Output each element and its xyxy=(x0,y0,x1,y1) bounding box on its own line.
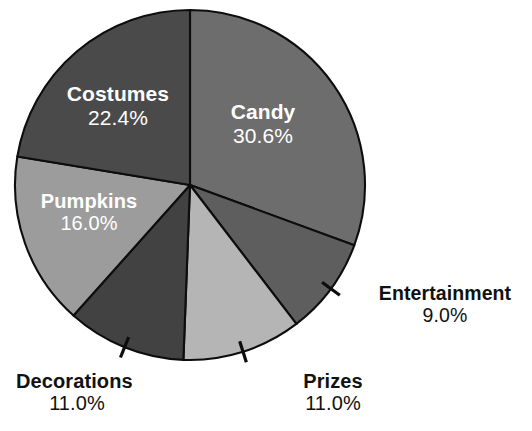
pie-chart: Candy 30.6% Costumes 22.4% Pumpkins 16.0… xyxy=(0,0,532,431)
slice-label-entertainment-name: Entertainment xyxy=(358,283,532,305)
slice-label-prizes: Prizes 11.0% xyxy=(272,370,394,415)
slice-label-pumpkins-name: Pumpkins xyxy=(14,190,164,212)
slice-label-candy-name: Candy xyxy=(198,100,328,124)
slice-label-costumes: Costumes 22.4% xyxy=(38,82,198,129)
slice-label-decorations-name: Decorations xyxy=(10,370,174,392)
slice-label-candy-percent: 30.6% xyxy=(198,124,328,148)
slice-label-entertainment-percent: 9.0% xyxy=(358,305,532,327)
slice-label-costumes-percent: 22.4% xyxy=(38,106,198,130)
slice-label-pumpkins-percent: 16.0% xyxy=(14,212,164,234)
slice-label-prizes-name: Prizes xyxy=(272,370,394,392)
slice-label-pumpkins: Pumpkins 16.0% xyxy=(14,190,164,235)
slice-label-entertainment: Entertainment 9.0% xyxy=(358,283,532,327)
slice-label-prizes-percent: 11.0% xyxy=(272,392,394,414)
pie-slices-group xyxy=(15,10,365,360)
slice-label-costumes-name: Costumes xyxy=(38,82,198,106)
slice-label-decorations: Decorations 11.0% xyxy=(2,370,174,415)
slice-label-candy: Candy 30.6% xyxy=(198,100,328,147)
slice-label-decorations-percent: 11.0% xyxy=(10,392,174,414)
